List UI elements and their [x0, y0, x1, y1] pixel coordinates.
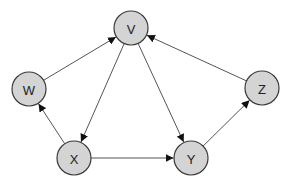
edge-w-to-v — [44, 37, 116, 80]
node-z: Z — [245, 71, 279, 105]
nodes-group: VWZXY — [12, 11, 279, 175]
node-y: Y — [174, 141, 208, 175]
node-v: V — [114, 11, 148, 45]
node-w: W — [12, 72, 46, 106]
node-x: X — [57, 141, 91, 175]
edge-x-to-w — [39, 104, 65, 144]
edges-group — [39, 35, 250, 158]
node-label: X — [70, 152, 79, 167]
graph-canvas: VWZXY — [0, 0, 288, 186]
edge-v-to-x — [81, 44, 124, 142]
node-label: V — [127, 22, 136, 37]
edge-z-to-v — [147, 35, 247, 81]
node-label: Y — [187, 152, 196, 167]
edge-v-to-y — [138, 43, 184, 142]
node-label: W — [23, 83, 36, 98]
edge-y-to-z — [203, 100, 249, 146]
node-label: Z — [258, 82, 266, 97]
